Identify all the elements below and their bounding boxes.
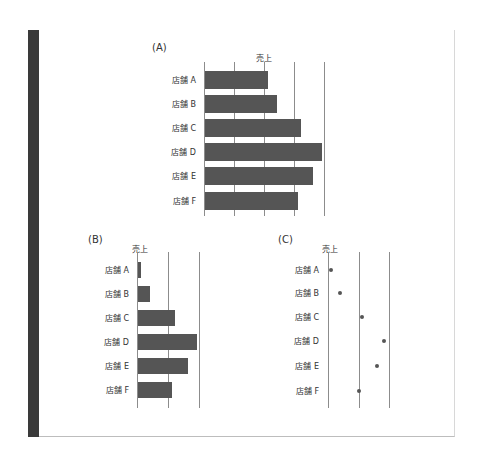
data-point (338, 291, 342, 295)
bar (138, 286, 150, 302)
bar (205, 119, 301, 137)
bar (138, 310, 175, 326)
category-label: 店舗 C (269, 311, 319, 322)
data-point (357, 389, 361, 393)
category-label: 店舗 E (269, 360, 319, 371)
data-point (329, 268, 333, 272)
category-label: 店舗 B (146, 98, 196, 109)
category-label: 店舗 D (79, 336, 129, 347)
category-label: 店舗 D (269, 335, 319, 346)
category-label: 店舗 F (269, 385, 319, 396)
bar (205, 192, 298, 210)
bar (138, 358, 188, 374)
gridline (359, 252, 360, 408)
bar (205, 95, 277, 113)
gridline (199, 252, 200, 408)
panel-label-a: (A) (152, 42, 167, 53)
gridline (389, 252, 390, 408)
category-label: 店舗 F (79, 384, 129, 395)
panel-label-c: (C) (278, 234, 293, 245)
data-point (375, 364, 379, 368)
category-label: 店舗 D (146, 146, 196, 157)
bar (205, 143, 322, 161)
data-point (360, 315, 364, 319)
axis-title-b: 売上 (132, 243, 148, 254)
axis-title-c: 売上 (322, 243, 338, 254)
bar (138, 262, 141, 278)
data-point (382, 339, 386, 343)
category-label: 店舗 E (79, 360, 129, 371)
bar (205, 71, 268, 89)
category-label: 店舗 A (269, 264, 319, 275)
category-label: 店舗 E (146, 170, 196, 181)
y-axis-line (328, 252, 329, 408)
category-label: 店舗 C (146, 122, 196, 133)
category-label: 店舗 C (79, 312, 129, 323)
panel-label-b: (B) (88, 234, 103, 245)
category-label: 店舗 F (146, 195, 196, 206)
bar (205, 167, 313, 185)
category-label: 店舗 B (79, 288, 129, 299)
category-label: 店舗 B (269, 287, 319, 298)
category-label: 店舗 A (146, 74, 196, 85)
category-label: 店舗 A (79, 264, 129, 275)
gridline (324, 62, 325, 216)
bar (138, 382, 172, 398)
page-spine (28, 30, 39, 437)
bar (138, 334, 197, 350)
